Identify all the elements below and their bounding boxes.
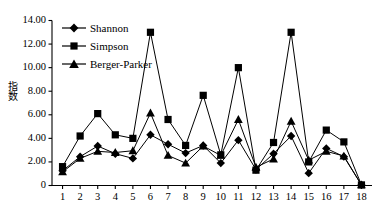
legend-label-simpson: Simpson <box>87 40 129 52</box>
data-point-marker <box>269 155 278 163</box>
data-point-marker <box>112 131 119 138</box>
data-point-marker <box>200 92 207 99</box>
plot-area <box>0 0 392 210</box>
data-point-marker <box>182 142 189 149</box>
legend-item-berger-parker: Berger-Parker <box>61 55 181 73</box>
data-point-marker <box>287 117 296 125</box>
legend-marker-diamond-icon <box>61 21 87 35</box>
legend-label-berger-parker: Berger-Parker <box>87 58 152 70</box>
data-point-marker <box>234 115 243 123</box>
chart-figure: 指数 02.004.006.008.0010.0012.0014.00 1234… <box>0 0 392 210</box>
data-point-marker <box>181 149 189 157</box>
data-point-marker <box>146 109 155 117</box>
data-point-marker <box>235 64 242 71</box>
legend-label-shannon: Shannon <box>87 22 129 34</box>
data-point-marker <box>94 110 101 117</box>
data-point-marker <box>164 116 171 123</box>
data-point-marker <box>270 139 277 146</box>
data-point-marker <box>146 131 154 139</box>
data-point-marker <box>77 132 84 139</box>
legend-item-simpson: Simpson <box>61 37 181 55</box>
series-shannon <box>58 131 365 189</box>
data-point-marker <box>129 154 137 162</box>
data-point-marker <box>128 146 137 154</box>
legend-item-shannon: Shannon <box>61 19 181 37</box>
series-line <box>63 135 362 185</box>
legend-marker-square-icon <box>61 39 87 53</box>
chart-legend: Shannon Simpson Berger-Parker <box>61 19 181 73</box>
data-point-marker <box>164 151 173 159</box>
data-point-marker <box>288 29 295 36</box>
data-point-marker <box>323 127 330 134</box>
legend-marker-triangle-icon <box>61 57 87 71</box>
data-point-marker <box>234 136 242 144</box>
data-point-marker <box>340 138 347 145</box>
data-point-marker <box>305 169 313 177</box>
data-point-marker <box>129 135 136 142</box>
